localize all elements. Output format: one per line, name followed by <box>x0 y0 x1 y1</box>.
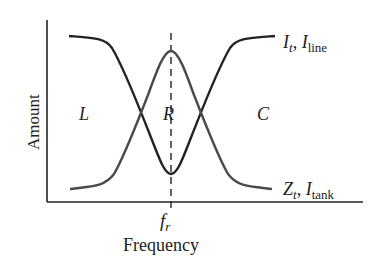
series-label-bottom: Zt, Itank <box>283 179 334 200</box>
series-bottom-sep: , <box>297 179 306 199</box>
series-bottom-sub-2: tank <box>312 187 334 202</box>
fr-tick-label: fr <box>160 210 170 232</box>
series-top-symbol-2: I <box>302 32 308 52</box>
series-bottom-sub-1: t <box>293 187 297 202</box>
region-label-r: R <box>163 104 174 125</box>
series-top-sub-2: line <box>308 40 328 55</box>
series-bottom-symbol-1: Z <box>283 179 293 199</box>
series-bottom-symbol-2: I <box>306 179 312 199</box>
x-axis-label: Frequency <box>123 235 199 256</box>
y-axis-label-text: Amount <box>24 94 43 150</box>
series-top-sub-1: t <box>289 40 293 55</box>
region-label-c: C <box>257 104 269 125</box>
series-top-sep: , <box>293 32 302 52</box>
fr-subscript: r <box>165 219 170 234</box>
y-axis-label: Amount <box>24 90 44 150</box>
region-label-l: L <box>79 104 89 125</box>
series-label-top: It, Iline <box>283 32 327 53</box>
